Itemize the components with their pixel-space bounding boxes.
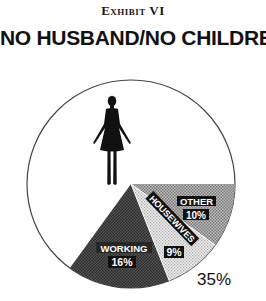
label-working-text: WORKING	[101, 243, 148, 254]
pie-chart: OTHER 10% HOUSEWIVES 9% WORKING 16%	[0, 0, 266, 301]
label-housewives-value: 9%	[166, 246, 182, 258]
label-other-value: 10%	[186, 210, 206, 221]
total-percentage-label: 35%	[197, 270, 231, 290]
label-other-text: OTHER	[180, 196, 213, 207]
label-working-value: 16%	[111, 256, 133, 268]
label-housewives-value-box: 9%	[164, 246, 184, 258]
